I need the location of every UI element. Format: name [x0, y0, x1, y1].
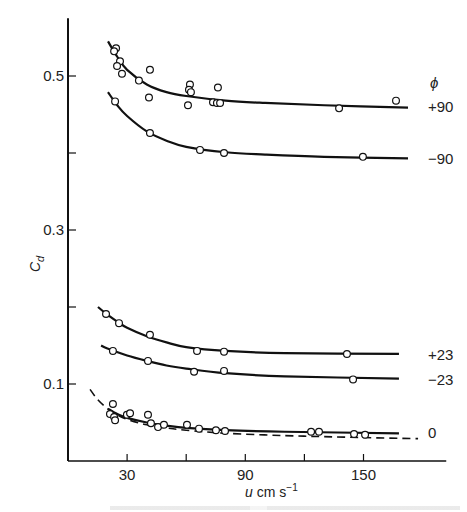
data-point — [336, 105, 343, 112]
data-point — [221, 150, 228, 157]
data-point — [213, 427, 220, 434]
data-point — [147, 130, 154, 137]
data-point — [393, 97, 400, 104]
legend-title-phi: ϕ — [430, 74, 438, 91]
data-points — [103, 45, 400, 438]
data-point — [350, 376, 357, 383]
data-point — [221, 348, 228, 355]
y-tick-label: 0.1 — [43, 375, 64, 392]
data-point — [136, 77, 143, 84]
drag-coefficient-chart: 30901500.10.30.5 +90−90+23−230 ϕ Cd ucm … — [0, 0, 467, 512]
x-tick-label: 150 — [351, 466, 376, 483]
data-point — [184, 421, 191, 428]
data-point — [194, 347, 201, 354]
data-point — [222, 428, 229, 435]
data-point — [110, 401, 117, 408]
data-point — [191, 368, 198, 375]
fit-curves — [90, 41, 418, 438]
data-point — [360, 153, 367, 160]
data-point — [116, 320, 123, 327]
data-point — [185, 102, 192, 109]
data-point — [114, 63, 121, 70]
data-point — [215, 84, 222, 91]
data-point — [148, 420, 155, 427]
fit-curve-23 — [98, 307, 399, 354]
data-point — [145, 358, 152, 365]
data-point — [344, 351, 351, 358]
data-point — [147, 331, 154, 338]
data-point — [119, 70, 126, 77]
cropped-caption — [110, 506, 460, 510]
svg-text:Cd: Cd — [27, 255, 46, 272]
data-point — [145, 411, 152, 418]
data-point — [161, 421, 168, 428]
data-point — [112, 417, 119, 424]
data-point — [196, 425, 203, 432]
fit-curve-90 — [108, 41, 408, 107]
data-point — [146, 94, 153, 101]
data-point — [111, 48, 118, 55]
data-point — [351, 431, 358, 438]
data-point — [308, 428, 315, 435]
x-tick-label: 90 — [237, 466, 254, 483]
series-label-23: +23 — [428, 346, 453, 363]
data-point — [362, 431, 369, 438]
data-point — [316, 428, 323, 435]
data-point — [221, 368, 228, 375]
series-label-90: +90 — [428, 98, 453, 115]
y-axis-title: Cd — [27, 255, 46, 272]
series-label-0: 0 — [428, 424, 436, 441]
x-axis-title: ucm s−1 — [245, 482, 298, 500]
data-point — [197, 147, 204, 154]
data-point — [112, 98, 119, 105]
series-label-90: −90 — [428, 150, 453, 167]
data-point — [188, 89, 195, 96]
y-tick-label: 0.5 — [43, 67, 64, 84]
svg-text:ucm s−1: ucm s−1 — [245, 482, 298, 500]
series-labels: +90−90+23−230 — [428, 98, 453, 441]
axes: 30901500.10.30.5 — [43, 18, 446, 483]
data-point — [147, 66, 154, 73]
x-tick-label: 30 — [119, 466, 136, 483]
series-label-23: −23 — [428, 371, 453, 388]
data-point — [217, 100, 224, 107]
data-point — [103, 311, 110, 318]
data-point — [110, 347, 117, 354]
data-point — [127, 410, 134, 417]
y-tick-label: 0.3 — [43, 221, 64, 238]
